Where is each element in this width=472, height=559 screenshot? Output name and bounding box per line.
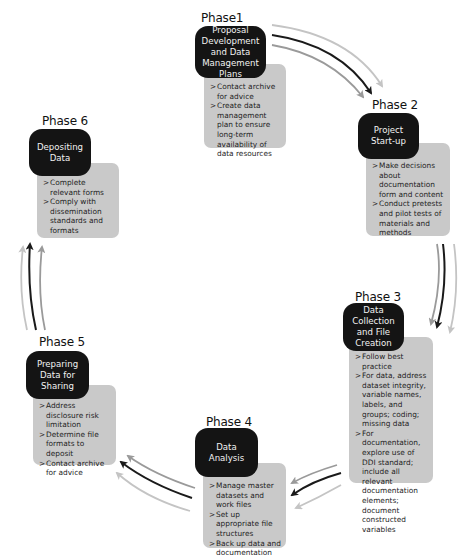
phase-4-item: Set up appropriate file structures	[209, 510, 282, 539]
phase-3-item: Follow best practice	[355, 352, 429, 371]
phase-4-title-box: Data Analysis	[195, 428, 258, 477]
phase-1-title-line: Development	[202, 36, 260, 47]
phase-2-item: Conduct pretests and pilot tests of mate…	[372, 199, 446, 237]
phase-3-title-line: and File	[352, 327, 395, 338]
phase-5-label: Phase 5	[39, 335, 85, 349]
phase-1-label: Phase1	[201, 11, 243, 25]
phase-1-title-box: Proposal Development and Data Management…	[195, 26, 266, 78]
phase-6-title-line: Depositing	[37, 142, 83, 153]
phase-2-item: Make decisions about documentation form …	[372, 161, 446, 199]
phase-5-item: Contact archive for advice	[39, 459, 112, 478]
phase-3-title-line: Creation	[352, 338, 395, 349]
phase-2-label: Phase 2	[372, 98, 418, 112]
arrow-group-phase1-to-phase2	[272, 25, 382, 97]
arrow-group-phase3-to-phase4	[292, 465, 341, 508]
phase-2-title-line: Project	[371, 125, 406, 136]
phase-1-title-line: Management	[202, 58, 260, 69]
phase-4-item: Manage master datasets and work files	[209, 481, 282, 510]
phase-1-title-line: Plans	[202, 69, 260, 80]
phase-6-item: Complete relevant forms	[43, 178, 115, 197]
phase-3-detail-box: Follow best practice For data, address d…	[349, 337, 433, 483]
phase-3-title-line: Collection	[352, 316, 395, 327]
phase-1-title-line: and Data	[202, 47, 260, 58]
phase-5-title-line: Data for	[37, 370, 78, 381]
phase-6-item: Comply with dissemination standards and …	[43, 197, 115, 235]
phase-5-item: Address disclosure risk limitation	[39, 401, 112, 430]
phase-4-title-line: Data	[209, 442, 244, 453]
phase-1-item: Contact archive for advice	[210, 82, 282, 101]
phase-3-title-line: Data	[352, 305, 395, 316]
phase-6-title-line: Data	[37, 153, 83, 164]
phase-3-item: For documentation, explore use of DDI st…	[355, 429, 429, 535]
phase-3-label: Phase 3	[355, 290, 401, 304]
phase-4-item: Back up data and documentation	[209, 539, 282, 558]
phase-6-title-box: Depositing Data	[29, 129, 91, 176]
arrow-group-phase2-to-phase3	[431, 244, 456, 332]
phase-5-item: Determine file formats to deposit	[39, 430, 112, 459]
phase-2-title-box: Project Start-up	[358, 113, 419, 159]
phase-3-item: For data, address dataset integrity, var…	[355, 371, 429, 429]
phase-5-title-box: Preparing Data for Sharing	[26, 351, 89, 399]
phase-5-title-line: Preparing	[37, 359, 78, 370]
phase-5-title-line: Sharing	[37, 381, 78, 392]
phase-2-title-line: Start-up	[371, 136, 406, 147]
phase-3-title-box: Data Collection and File Creation	[343, 303, 404, 351]
phase-1-title-line: Proposal	[202, 25, 260, 36]
phase-4-label: Phase 4	[206, 415, 252, 429]
phase-4-title-line: Analysis	[209, 453, 244, 464]
arrow-group-phase5-to-phase6	[21, 244, 45, 330]
phase-6-label: Phase 6	[42, 114, 88, 128]
phase-1-item: Create data management plan to ensure lo…	[210, 101, 282, 159]
arrow-group-phase4-to-phase5	[117, 456, 195, 511]
